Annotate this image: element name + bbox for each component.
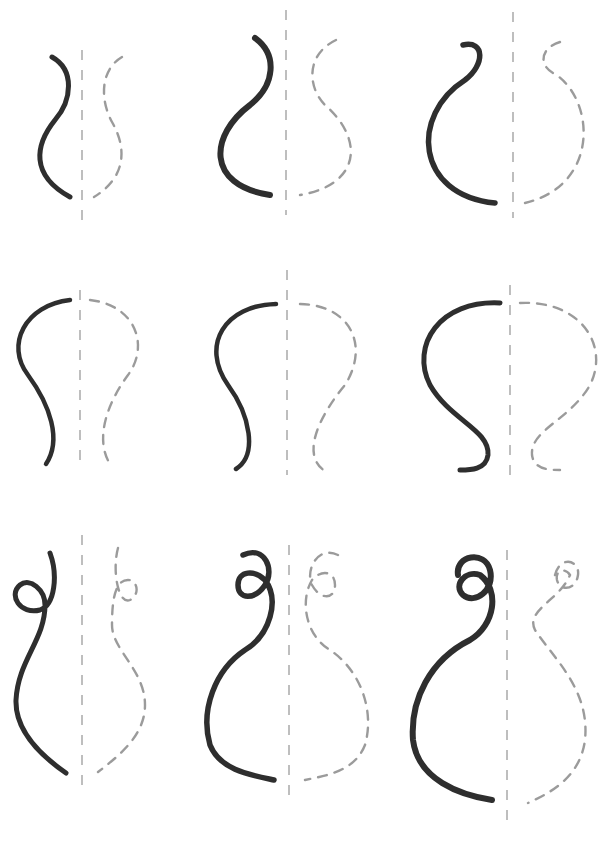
sketch-r1c2 [220, 10, 350, 215]
sketch-r2c1 [18, 290, 138, 470]
sketch-r1c3 [429, 12, 584, 218]
sketch-r2c2 [216, 270, 355, 475]
sketch-r3c3 [413, 550, 586, 828]
sketch-r3c2 [207, 545, 368, 805]
sketch-r2c3 [424, 285, 596, 480]
sketch-sheet [0, 0, 603, 844]
sketch-r3c1 [15, 535, 145, 795]
sketch-r1c1 [40, 50, 122, 225]
